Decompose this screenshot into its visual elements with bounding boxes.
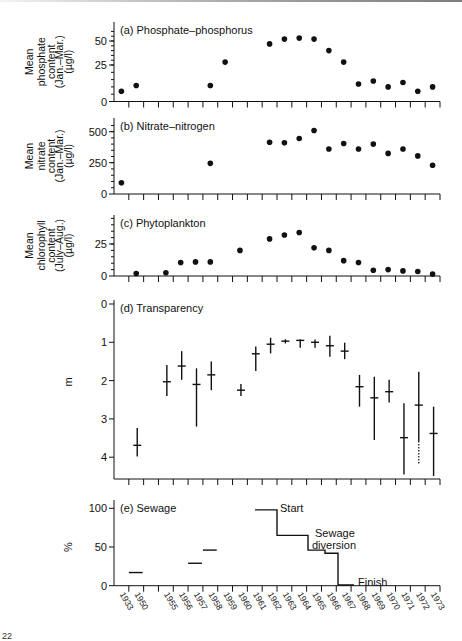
data-point: [133, 271, 139, 277]
data-point: [163, 270, 169, 276]
y-axis-label: (µg/l): [62, 233, 74, 257]
y-tick-label: 50: [95, 541, 107, 553]
x-tick-label-year: 1955: [162, 590, 180, 612]
data-point: [341, 258, 347, 264]
annotation-label: diversion: [312, 539, 356, 551]
data-point: [208, 259, 214, 265]
data-point: [178, 260, 184, 266]
panel-phytoplankton: 025(c) PhytoplanktonMeanchlorophyllconte…: [23, 215, 440, 282]
data-point: [415, 153, 421, 159]
y-tick-label: 3: [101, 413, 107, 425]
data-point: [296, 136, 302, 142]
y-tick-label: 500: [89, 126, 107, 138]
data-point: [119, 180, 125, 186]
data-point: [282, 36, 288, 42]
x-tick-label-year: 1964: [295, 590, 313, 612]
y-axis-label: Mean: [23, 232, 35, 258]
data-point: [208, 161, 214, 167]
panel-title: (e) Sewage: [120, 502, 176, 514]
x-tick-label-year: 1958: [207, 590, 225, 612]
data-point: [326, 48, 332, 54]
data-point: [282, 232, 288, 238]
x-tick-label-year: 1969: [370, 590, 388, 612]
y-tick-label: 25: [95, 59, 107, 71]
data-point: [267, 139, 273, 145]
data-point: [208, 83, 214, 89]
y-tick-label: 2: [101, 375, 107, 387]
data-point: [311, 36, 317, 42]
y-axis-label: m: [62, 377, 74, 386]
panel-nitrate: 0250500(b) Nitrate–nitrogenMeannitrateco…: [23, 118, 440, 200]
data-point: [430, 271, 436, 277]
y-tick-label: 4: [101, 451, 107, 463]
page-number: 22: [2, 631, 12, 641]
y-tick-label: 0: [101, 298, 107, 310]
x-tick-label-year: 1967: [340, 590, 358, 612]
panel-title: (a) Phosphate–phosphorus: [120, 24, 253, 36]
data-point: [356, 260, 362, 266]
y-tick-label: 0: [101, 580, 107, 592]
y-tick-label: 0: [101, 270, 107, 282]
annotation-label: Start: [280, 502, 303, 514]
data-point: [193, 259, 199, 265]
data-point: [222, 59, 228, 65]
data-point: [296, 230, 302, 236]
data-point: [356, 146, 362, 152]
data-point: [119, 88, 125, 94]
panel-title: (b) Nitrate–nitrogen: [120, 120, 215, 132]
data-point: [326, 146, 332, 152]
data-point: [326, 248, 332, 254]
y-tick-label: 1: [101, 336, 107, 348]
panel-transparency: 01234(d) Transparencym: [62, 298, 440, 485]
y-tick-label: 0: [101, 96, 107, 108]
x-tick-label-year: 1959: [221, 590, 239, 612]
data-point: [415, 88, 421, 94]
x-tick-label-year: 1973: [429, 590, 447, 612]
x-tick-label-year: 1962: [266, 590, 284, 612]
y-tick-label: 100: [89, 502, 107, 514]
y-axis-label: Mean: [23, 143, 35, 169]
x-tick-label-year: 1933: [118, 590, 136, 612]
panel-title: (c) Phytoplankton: [120, 217, 206, 229]
data-point: [430, 162, 436, 168]
data-point: [400, 268, 406, 274]
data-point: [133, 83, 139, 89]
data-point: [415, 269, 421, 275]
data-point: [371, 141, 377, 147]
data-point: [400, 80, 406, 86]
y-tick-label: 250: [89, 157, 107, 169]
panel-phosphate: 02550(a) Phosphate–phosphorusMeanphospha…: [23, 22, 440, 108]
data-point: [385, 151, 391, 157]
data-point: [282, 140, 288, 146]
data-point: [385, 84, 391, 90]
data-point: [311, 128, 317, 134]
data-point: [341, 59, 347, 65]
x-tick-label-year: 1971: [399, 590, 417, 612]
annotation-label: Sewage: [315, 527, 355, 539]
data-point: [371, 267, 377, 273]
y-tick-label: 0: [101, 188, 107, 200]
data-point: [311, 245, 317, 251]
data-point: [371, 78, 377, 84]
x-tick-label-year: 1956: [177, 590, 195, 612]
x-tick-label-year: 1972: [414, 590, 432, 612]
data-point: [237, 248, 243, 254]
y-tick-label: 25: [95, 238, 107, 250]
panel-title: (d) Transparency: [120, 302, 204, 314]
y-tick-label: 50: [95, 35, 107, 47]
x-tick-label-year: 1963: [281, 590, 299, 612]
annotation-label: Finish: [358, 576, 387, 588]
data-point: [400, 146, 406, 152]
data-point: [267, 41, 273, 47]
data-point: [385, 267, 391, 273]
y-axis-label: (µg/l): [62, 50, 74, 74]
x-tick-label-year: 1957: [192, 590, 210, 612]
x-axis-year-labels: 1933195019551956195719581959196019611962…: [118, 590, 447, 612]
panel-sewage: 050100(e) Sewage%StartSewagediversionFin…: [62, 500, 440, 592]
y-axis-label: %: [62, 542, 74, 552]
y-axis-label: (µg/l): [62, 144, 74, 168]
data-point: [356, 81, 362, 87]
x-tick-label-year: 1965: [310, 590, 328, 612]
x-tick-label-year: 1950: [132, 590, 150, 612]
